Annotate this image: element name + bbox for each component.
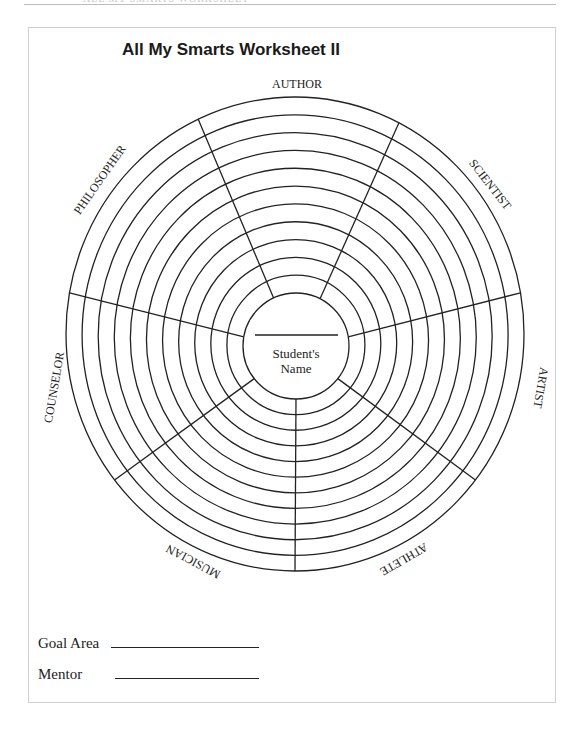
center-label-2: Name bbox=[280, 361, 311, 376]
goal-area-row: Goal Area bbox=[38, 635, 99, 652]
segment-label-author: AUTHOR bbox=[272, 77, 322, 91]
smarts-wheel: Student's Name AUTHOR SCIENTIST ARTIST A… bbox=[0, 0, 582, 735]
mentor-label: Mentor bbox=[38, 666, 82, 682]
center-label-1: Student's bbox=[272, 346, 319, 361]
segment-label-philosopher: PHILOSOPHER bbox=[71, 142, 129, 217]
segment-label-musician: MUSICIAN bbox=[163, 541, 222, 581]
segment-label-athlete: ATHLETE bbox=[378, 540, 431, 578]
mentor-row: Mentor bbox=[38, 666, 82, 683]
segment-label-artist: ARTIST bbox=[530, 366, 551, 410]
mentor-field[interactable] bbox=[115, 678, 259, 679]
segment-label-counselor: COUNSELOR bbox=[41, 351, 67, 424]
goal-area-field[interactable] bbox=[111, 647, 259, 648]
goal-area-label: Goal Area bbox=[38, 635, 99, 651]
